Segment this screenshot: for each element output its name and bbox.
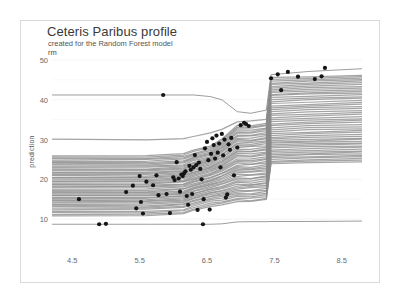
observation-point	[144, 180, 148, 184]
x-tick-label: 4.5	[67, 256, 77, 265]
observation-point	[154, 173, 158, 177]
observation-point	[164, 192, 168, 196]
observation-point	[175, 160, 179, 164]
observation-point	[209, 152, 213, 156]
chart-title: Ceteris Paribus profile	[47, 24, 177, 39]
observation-point	[168, 211, 172, 215]
observation-point	[222, 137, 226, 141]
observation-point	[138, 174, 142, 178]
observation-point	[286, 70, 290, 74]
observation-point	[208, 207, 212, 211]
observation-point	[141, 211, 145, 215]
observation-point	[173, 178, 177, 182]
observation-point	[200, 177, 204, 181]
observation-point	[247, 124, 251, 128]
x-tick-label: 6.5	[202, 256, 212, 265]
observation-point	[77, 197, 81, 201]
y-tick-label: 10	[22, 215, 48, 224]
observation-point	[185, 194, 189, 198]
observation-point	[276, 72, 280, 76]
observation-point	[206, 158, 210, 162]
observation-point	[239, 123, 243, 127]
observation-point	[232, 173, 236, 177]
observation-point	[190, 192, 194, 196]
observation-point	[213, 157, 217, 161]
observation-point	[205, 140, 209, 144]
observation-point	[269, 76, 273, 80]
observation-point	[319, 74, 323, 78]
observation-point	[214, 133, 218, 137]
observation-point	[210, 136, 214, 140]
observation-point	[313, 77, 317, 81]
observation-point	[161, 93, 165, 97]
observation-point	[217, 141, 221, 145]
profile-lines	[52, 69, 362, 225]
observation-point	[201, 222, 205, 226]
observation-point	[279, 88, 283, 92]
observation-point	[212, 143, 216, 147]
observation-point	[187, 164, 191, 168]
observation-point	[221, 153, 225, 157]
y-tick-label: 50	[22, 55, 48, 64]
observation-point	[139, 200, 143, 204]
observation-point	[134, 206, 138, 210]
observation-point	[229, 136, 233, 140]
observation-point	[183, 169, 187, 173]
observation-point	[151, 183, 155, 187]
observation-point	[156, 193, 160, 197]
observation-point	[203, 146, 207, 150]
ceteris-paribus-lines	[52, 56, 362, 233]
chart-subtitle: created for the Random Forest model	[48, 39, 173, 48]
observation-point	[178, 190, 182, 194]
y-tick-label: 30	[22, 135, 48, 144]
observation-point	[197, 161, 201, 165]
observation-point	[226, 142, 230, 146]
observation-point	[177, 176, 181, 180]
observation-point	[195, 208, 199, 212]
plot-area	[52, 56, 362, 233]
x-axis-ticks: 4.55.56.57.58.5	[0, 256, 403, 270]
x-tick-label: 8.5	[337, 256, 347, 265]
observation-point	[323, 66, 327, 70]
observation-point	[124, 190, 128, 194]
observation-point	[104, 222, 108, 226]
observation-point	[193, 153, 197, 157]
observation-point	[296, 75, 300, 79]
y-tick-label: 20	[22, 175, 48, 184]
observation-point	[218, 165, 222, 169]
observation-point	[228, 148, 232, 152]
y-tick-label: 40	[22, 95, 48, 104]
x-tick-label: 7.5	[269, 256, 279, 265]
observation-point	[220, 132, 224, 136]
observation-point	[97, 222, 101, 226]
x-tick-label: 5.5	[134, 256, 144, 265]
observation-point	[186, 203, 190, 207]
observation-point	[131, 184, 135, 188]
observation-point	[225, 192, 229, 196]
observation-point	[202, 197, 206, 201]
observation-point	[198, 167, 202, 171]
observation-point	[235, 145, 239, 149]
observation-point	[216, 151, 220, 155]
